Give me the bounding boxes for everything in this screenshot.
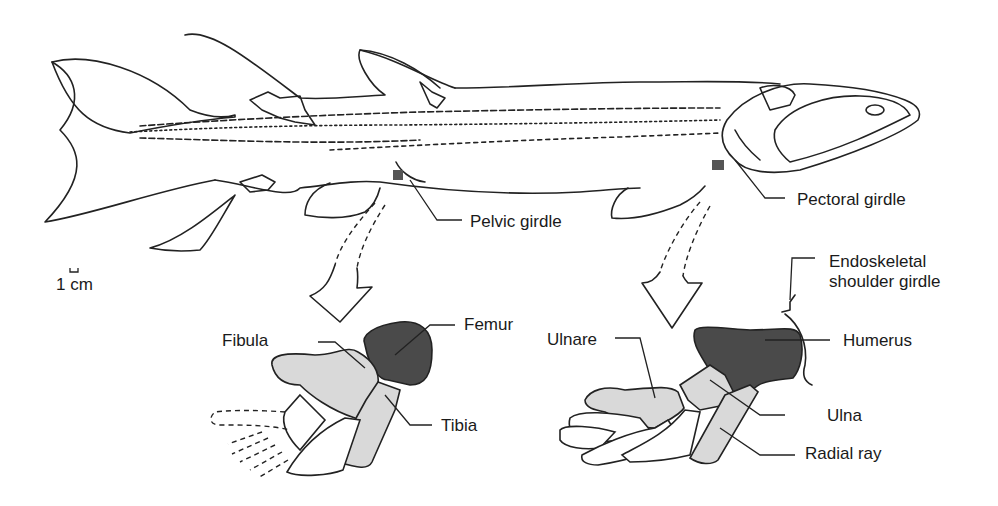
pectoral-fin-detail [560,295,812,465]
label-ulnare: Ulnare [547,330,597,350]
arrow-to-pectoral-detail [642,202,710,328]
label-pectoral-girdle: Pectoral girdle [797,190,906,210]
label-pelvic-girdle: Pelvic girdle [470,212,562,232]
fish-body-outline [45,34,780,251]
scale-bar-label: 1 cm [56,275,93,295]
label-endoskeletal-line1: Endoskeletal [829,252,926,272]
label-femur: Femur [464,315,513,335]
leader-endoskeletal-shoulder-girdle [790,258,815,300]
fish-skeleton-diagram: 1 cm Pelvic girdle Pectoral girdle Femur… [0,0,998,506]
fin-radials [240,82,445,192]
pelvic-girdle-marker [393,170,403,180]
label-radial-ray: Radial ray [805,444,882,464]
label-humerus: Humerus [843,331,912,351]
arrow-to-pelvic-detail [310,203,385,322]
pectoral-girdle-marker [712,160,724,170]
fish-head [722,84,919,173]
vertebral-column [130,108,720,150]
scale-bar [70,268,78,272]
label-tibia: Tibia [441,416,477,436]
label-fibula: Fibula [222,331,268,351]
label-endoskeletal-line2: shoulder girdle [829,272,941,292]
label-ulna: Ulna [827,406,862,426]
